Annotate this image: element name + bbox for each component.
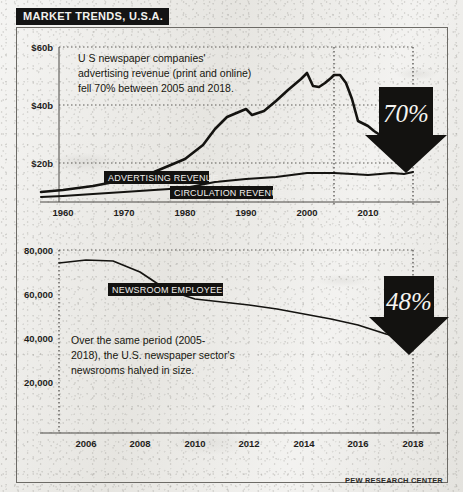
legend-newsroom-employees: NEWSROOM EMPLOYEES xyxy=(108,283,229,296)
source-attribution: PEW RESEARCH CENTER xyxy=(345,476,443,485)
y-tick-label-60b: $60b xyxy=(31,42,53,53)
legend-circulation-label: CIRCULATION REVENUE xyxy=(174,188,284,198)
x-tick-label-1980: 1980 xyxy=(174,207,195,218)
y-tick-label-20b: $20b xyxy=(31,158,53,169)
callout-70-percent-label: 70% xyxy=(383,100,429,127)
advertising-revenue-svg: $60b $40b $20b 1960 1970 1980 1990 2000 … xyxy=(0,27,463,222)
y-tick-label-20000: 20,000 xyxy=(24,377,53,388)
newsroom-employees-chart: 80,000 60,000 40,000 20,000 2006 2008 20… xyxy=(0,228,463,478)
callout-70-percent-arrow: 70% xyxy=(365,87,447,173)
x-tick-label-2000: 2000 xyxy=(296,207,317,218)
advertising-annotation-line-2: advertising revenue (print and online) xyxy=(78,67,251,79)
y-tick-label-60000: 60,000 xyxy=(24,289,53,300)
advertising-revenue-chart: $60b $40b $20b 1960 1970 1980 1990 2000 … xyxy=(0,27,463,222)
x-tick-label-2018: 2018 xyxy=(402,438,423,449)
legend-advertising-label: ADVERTISING REVENUE xyxy=(108,173,219,183)
x-tick-label-2006: 2006 xyxy=(75,438,96,449)
x-tick-label-2010: 2010 xyxy=(184,438,205,449)
x-tick-label-1990: 1990 xyxy=(235,207,256,218)
y-tick-label-80000: 80,000 xyxy=(24,245,53,256)
newsroom-annotation-line-2: 2018), the U.S. newspaper sector's xyxy=(71,349,235,361)
x-tick-label-2008: 2008 xyxy=(129,438,150,449)
newsroom-employees-series xyxy=(59,260,413,341)
newsroom-annotation-line-1: Over the same period (2005- xyxy=(71,334,206,346)
x-tick-label-2012: 2012 xyxy=(238,438,259,449)
advertising-annotation-line-3: fell 70% between 2005 and 2018. xyxy=(78,82,234,94)
legend-newsroom-label: NEWSROOM EMPLOYEES xyxy=(112,285,229,295)
legend-advertising-revenue: ADVERTISING REVENUE xyxy=(104,171,219,184)
newsroom-employees-svg: 80,000 60,000 40,000 20,000 2006 2008 20… xyxy=(0,228,463,478)
x-tick-label-2016: 2016 xyxy=(347,438,368,449)
x-tick-label-1960: 1960 xyxy=(52,207,73,218)
x-tick-label-1970: 1970 xyxy=(113,207,134,218)
advertising-annotation-line-1: U S newspaper companies' xyxy=(78,52,206,64)
legend-circulation-revenue: CIRCULATION REVENUE xyxy=(170,186,284,199)
callout-48-percent-arrow: 48% xyxy=(369,276,449,355)
y-tick-label-40b: $40b xyxy=(31,100,53,111)
market-trends-title-banner: MARKET TRENDS, U.S.A. xyxy=(16,8,169,25)
newsroom-annotation-line-3: newsrooms halved in size. xyxy=(71,364,194,376)
callout-48-percent-label: 48% xyxy=(386,288,432,315)
x-tick-label-2010: 2010 xyxy=(357,207,378,218)
x-tick-label-2014: 2014 xyxy=(293,438,315,449)
y-tick-label-40000: 40,000 xyxy=(24,333,53,344)
